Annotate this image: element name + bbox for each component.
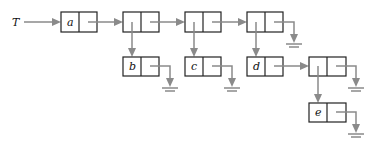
arrowhead-icon (352, 78, 360, 87)
node-label: a (67, 16, 74, 29)
arrowhead-icon (228, 78, 236, 87)
arrowhead-icon (252, 48, 260, 57)
arrowhead-icon (290, 34, 298, 43)
arrowhead-icon (128, 48, 136, 57)
linked-list-diagram: T a b (0, 0, 381, 145)
arrowhead-icon (300, 62, 309, 70)
root-label: T (12, 16, 21, 29)
arrowhead-icon (114, 18, 123, 26)
arrowhead-icon (238, 18, 247, 26)
arrowhead-icon (176, 18, 185, 26)
arrowhead-icon (352, 124, 360, 133)
arrowhead-icon (52, 18, 61, 26)
node-label: b (129, 60, 136, 73)
node-label: d (253, 60, 260, 73)
arrowhead-icon (314, 94, 322, 103)
node-label: e (315, 106, 322, 119)
node-label: c (191, 60, 197, 73)
arrowhead-icon (166, 78, 174, 87)
arrowhead-icon (190, 48, 198, 57)
